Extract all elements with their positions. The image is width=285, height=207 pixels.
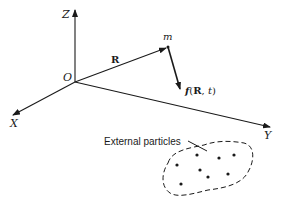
x-axis-label: X (9, 117, 19, 130)
region-label-leader (188, 141, 207, 151)
particle-dot (175, 163, 178, 166)
y-axis (75, 82, 270, 127)
particle-dot (232, 153, 235, 156)
external-particles-label: External particles (104, 136, 181, 147)
external-particles-region (163, 141, 253, 195)
particle-dot (195, 153, 198, 156)
z-axis-label: Z (61, 8, 70, 21)
force-vector (168, 47, 180, 89)
position-vector-label: R (111, 54, 120, 65)
particle-dot (198, 168, 201, 171)
particle-dot (206, 175, 209, 178)
particle-label: m (163, 31, 172, 42)
position-vector-r (75, 48, 166, 82)
diagram-canvas: Z X Y O R m f(R, t) External particles (0, 0, 285, 207)
external-particles (175, 153, 235, 185)
particle-dot (217, 156, 220, 159)
force-label-close: ) (212, 85, 216, 96)
y-axis-label: Y (264, 129, 273, 142)
particle-dot (179, 182, 182, 185)
x-axis (13, 82, 75, 115)
origin-label: O (63, 71, 72, 84)
particle-dot (226, 172, 229, 175)
force-label: f(R, t) (184, 85, 216, 96)
